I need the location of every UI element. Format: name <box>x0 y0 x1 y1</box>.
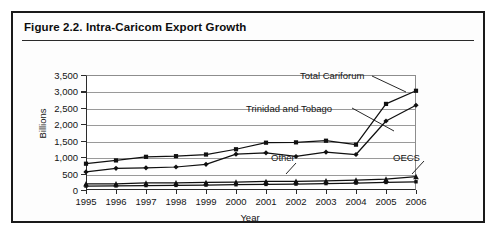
annotation-trinidad-and-tobago: Trinidad and Tobago <box>246 103 332 114</box>
data-point <box>354 181 357 184</box>
data-point <box>354 143 358 147</box>
data-point <box>174 184 177 187</box>
data-point <box>233 152 238 157</box>
data-point <box>204 183 207 186</box>
data-point <box>384 181 387 184</box>
data-point <box>294 140 298 144</box>
data-point <box>83 169 88 174</box>
data-point <box>143 165 148 170</box>
annotation-oecs: OECS <box>393 152 420 163</box>
annotation-total-cariforum: Total Cariforum <box>300 70 364 81</box>
data-point <box>174 154 178 158</box>
annotation-leader-line <box>372 76 406 92</box>
data-point <box>264 183 267 186</box>
data-point <box>234 183 237 186</box>
series-line-oecs <box>86 182 416 186</box>
series-overlay <box>0 0 500 249</box>
data-point <box>413 103 418 108</box>
data-point <box>114 158 118 162</box>
data-point <box>234 147 238 151</box>
data-point <box>114 184 117 187</box>
data-point <box>203 162 208 167</box>
data-point <box>204 152 208 156</box>
data-point <box>324 139 328 143</box>
data-point <box>384 102 388 106</box>
data-point <box>84 162 88 166</box>
data-point <box>414 89 418 93</box>
data-point <box>264 141 268 145</box>
data-point <box>113 166 118 171</box>
chart-plot-block: 05001,0001,5002,0002,5003,0003,500 Billi… <box>0 0 500 249</box>
annotation-other: Other <box>271 152 295 163</box>
data-point <box>414 180 417 183</box>
data-point <box>144 184 147 187</box>
series-line-total-cariforum <box>86 91 416 164</box>
data-point <box>324 182 327 185</box>
data-point <box>84 184 87 187</box>
data-point <box>173 164 178 169</box>
annotation-leader-line <box>286 163 296 174</box>
series-line-trinidad-and-tobago <box>86 105 416 172</box>
data-point <box>144 155 148 159</box>
data-point <box>263 150 268 155</box>
data-point <box>294 182 297 185</box>
data-point <box>323 150 328 155</box>
